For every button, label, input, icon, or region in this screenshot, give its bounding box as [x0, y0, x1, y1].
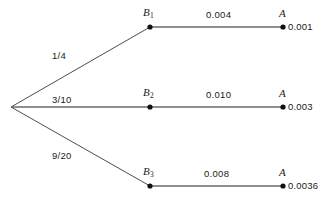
prior-label-b3: 9/20 [52, 151, 72, 161]
node-b1-dot [147, 24, 152, 29]
node-label-b1-letter: B [143, 6, 150, 18]
node-label-b2-letter: B [143, 86, 150, 98]
probability-tree-diagram: 1/4 3/10 9/20 B1 B2 B3 0.004 0.010 0.008… [0, 0, 332, 203]
node-label-b1-subscript: 1 [150, 11, 154, 20]
node-a1-dot [280, 24, 285, 29]
edge-label-b1-a1: 0.004 [206, 10, 231, 20]
leaf-label-a1: A [279, 8, 286, 19]
joint-value-a3: 0.0036 [288, 181, 318, 191]
node-b3-dot [147, 183, 152, 188]
node-label-b1: B1 [143, 7, 153, 18]
edge-label-b2-a2: 0.010 [206, 90, 231, 100]
node-label-b3-subscript: 3 [150, 170, 154, 179]
edge-label-b3-a3: 0.008 [204, 169, 229, 179]
node-b2-dot [147, 104, 152, 109]
node-label-b3: B3 [143, 166, 153, 177]
node-label-b2: B2 [143, 87, 153, 98]
joint-value-a2: 0.003 [288, 102, 313, 112]
node-a2-dot [280, 104, 285, 109]
edge-root-to-b1 [11, 27, 150, 107]
prior-label-b1: 1/4 [52, 51, 66, 61]
node-a3-dot [280, 183, 285, 188]
leaf-label-a3: A [279, 167, 286, 178]
edge-root-to-b3 [11, 107, 150, 186]
leaf-label-a2: A [279, 88, 286, 99]
node-label-b3-letter: B [143, 165, 150, 177]
node-label-b2-subscript: 2 [150, 91, 154, 100]
joint-value-a1: 0.001 [288, 22, 313, 32]
prior-label-b2: 3/10 [52, 95, 72, 105]
